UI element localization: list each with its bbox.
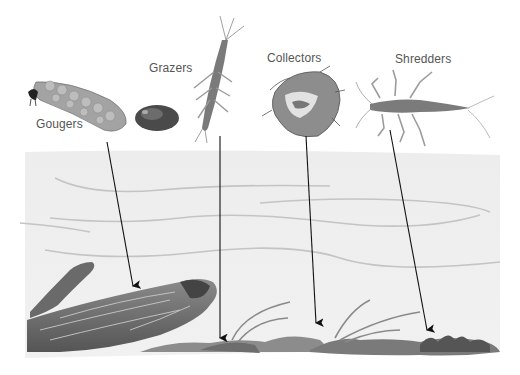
label-gougers: Gougers: [36, 117, 83, 131]
label-shredders: Shredders: [395, 52, 451, 66]
label-collectors: Collectors: [267, 51, 321, 65]
grazer-snail: [135, 105, 179, 131]
grazer-mayfly-nymph: [194, 16, 244, 143]
collector-cased-larva: [262, 66, 345, 137]
feeding-groups-diagram: Gougers Grazers Collectors Shredders: [0, 0, 520, 375]
label-grazers: Grazers: [149, 61, 192, 75]
shredder-stonefly-nymph: [356, 70, 494, 146]
